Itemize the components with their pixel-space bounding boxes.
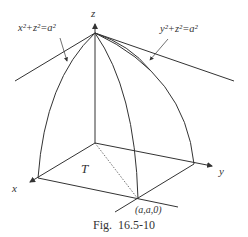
surface-left-equation: x²+z²=a² bbox=[18, 23, 56, 34]
diagram-canvas bbox=[0, 0, 248, 237]
curve-left bbox=[38, 33, 95, 178]
y-axis bbox=[95, 143, 212, 166]
base-line-x-to-aa bbox=[38, 178, 178, 207]
surface-left-edge-line bbox=[15, 33, 95, 81]
x-axis-label: x bbox=[12, 183, 17, 194]
curve-middle bbox=[95, 33, 138, 199]
caption-prefix: Fig. bbox=[93, 218, 112, 232]
surface-right-edge-line bbox=[95, 33, 234, 81]
region-label: T bbox=[81, 162, 88, 175]
pointer-left bbox=[60, 38, 67, 61]
z-axis-label: z bbox=[91, 8, 95, 19]
surface-right-equation: y²+z²=a² bbox=[160, 24, 198, 35]
figure-caption: Fig. 16.5-10 bbox=[0, 218, 248, 233]
diagonal-dashed bbox=[95, 143, 138, 199]
y-axis-label: y bbox=[219, 166, 224, 177]
caption-number: 16.5-10 bbox=[118, 218, 155, 232]
curve-right-upper bbox=[95, 33, 150, 70]
point-label: (a,a,0) bbox=[135, 205, 162, 215]
curve-right bbox=[95, 33, 194, 164]
